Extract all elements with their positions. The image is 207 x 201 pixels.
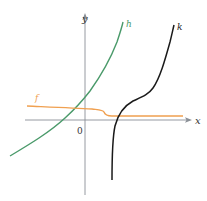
curve-k-path [112,25,174,180]
curve-f: f [27,93,183,116]
curve-f-label: f [34,93,40,103]
curve-f-path [27,106,183,116]
x-axis-label: x [195,115,201,126]
y-axis-label: y [81,13,88,24]
curve-h-path [10,22,123,156]
curve-k: k [112,22,182,180]
axes: x y 0 [25,13,201,195]
function-graph: x y 0 h f k [0,0,207,201]
curve-k-label: k [177,22,182,32]
origin-label: 0 [77,126,83,136]
curve-h-label: h [126,19,132,29]
